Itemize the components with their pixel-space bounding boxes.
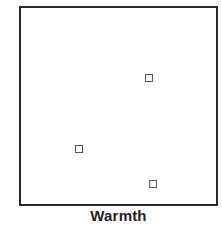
- x-axis-label: Warmth: [19, 207, 218, 224]
- data-point-marker: [145, 74, 153, 82]
- data-point-marker: [75, 145, 83, 153]
- plot-area: [19, 6, 218, 206]
- data-point-marker: [149, 180, 157, 188]
